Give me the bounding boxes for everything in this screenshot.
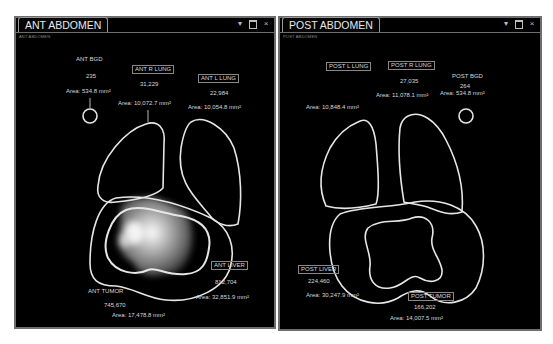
ant-tumor-area: Area: 17,478.8 mm² <box>112 312 165 319</box>
ant-bgd-area: Area: 534.8 mm² <box>66 88 111 95</box>
ant-l-lung-label: ANT L LUNG <box>198 74 239 83</box>
post-r-lung-label: POST R LUNG <box>388 61 435 70</box>
post-r-lung-roi[interactable] <box>399 114 462 213</box>
post-bgd-label: POST BGD <box>452 73 483 80</box>
ant-bgd-roi[interactable] <box>83 109 97 123</box>
ant-abdomen-panel: ANT ABDOMEN ▾ × ANT ABDOMEN <box>14 16 276 329</box>
post-bgd-counts: 264 <box>460 83 470 90</box>
ant-r-lung-area: Area: 10,072.7 mm² <box>118 100 171 107</box>
post-tumor-label: POST TUMOR <box>408 292 454 301</box>
ant-liver-counts: 812,704 <box>215 279 237 286</box>
ant-r-lung-label: ANT R LUNG <box>132 65 174 74</box>
post-l-lung-label: POST L LUNG <box>326 62 371 71</box>
post-l-lung-roi[interactable] <box>321 120 378 208</box>
ant-bgd-counts: 235 <box>86 73 96 80</box>
ant-liver-label: ANT LIVER <box>211 261 248 270</box>
ant-r-lung-roi[interactable] <box>98 123 165 202</box>
ant-r-lung-counts: 31,229 <box>140 81 158 88</box>
post-liver-roi[interactable] <box>330 201 484 303</box>
ant-bgd-label: ANT BGD <box>76 56 103 63</box>
post-r-lung-counts: 27,035 <box>400 78 418 85</box>
post-tumor-area: Area: 14,007.5 mm² <box>390 315 443 322</box>
post-r-lung-area: Area: 11,078.1 mm² <box>376 92 429 99</box>
ant-liver-area: Area: 32,851.9 mm² <box>196 294 249 301</box>
post-bgd-area: Area: 534.8 mm² <box>440 90 485 97</box>
post-liver-label: POST LIVER <box>298 265 339 274</box>
ant-l-lung-counts: 22,984 <box>210 90 228 97</box>
post-abdomen-panel: POST ABDOMEN ▾ × POST ABDOMEN POST L LUN… <box>278 16 542 331</box>
post-l-lung-area: Area: 10,848.4 mm² <box>306 104 359 111</box>
post-tumor-roi[interactable] <box>365 217 442 288</box>
post-liver-counts: 224,460 <box>308 278 330 285</box>
post-liver-area: Area: 30,247.9 mm² <box>306 292 359 299</box>
ant-l-lung-area: Area: 10,054.8 mm² <box>188 104 241 111</box>
post-bgd-roi[interactable] <box>459 109 473 123</box>
ant-tumor-counts: 745,670 <box>104 302 126 309</box>
post-tumor-counts: 166,202 <box>414 304 436 311</box>
ant-tumor-label: ANT TUMOR <box>88 288 123 295</box>
